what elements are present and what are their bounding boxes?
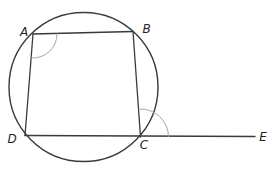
vertex-label-A: A bbox=[19, 25, 28, 39]
figure-canvas: ABCDE bbox=[0, 0, 277, 173]
side-AB bbox=[33, 32, 133, 35]
geometry-figure: ABCDE bbox=[0, 0, 277, 173]
angle-arc-A bbox=[31, 33, 57, 58]
vertex-label-D: D bbox=[7, 132, 16, 146]
vertex-label-E: E bbox=[259, 130, 267, 144]
vertex-label-C: C bbox=[140, 138, 149, 152]
side-BC bbox=[133, 32, 141, 138]
circumscribed-circle bbox=[9, 13, 158, 162]
secant-line-DCE bbox=[25, 136, 255, 137]
side-DA bbox=[25, 34, 33, 136]
vertex-label-B: B bbox=[142, 22, 150, 36]
